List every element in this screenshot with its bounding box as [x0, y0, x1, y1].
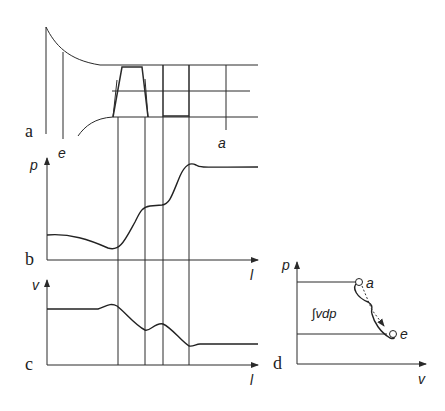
point-e-label: e [58, 145, 66, 161]
panel-b-pressure: p b l [25, 157, 258, 283]
velocity-curve [47, 304, 258, 346]
panel-b-label: b [25, 249, 34, 269]
point-a-label: a [218, 135, 226, 151]
panel-a-geometry: a e a [25, 27, 258, 161]
diagram-canvas: a e a p b l v c l a e ∫vdp [0, 0, 445, 411]
panel-c-label: c [25, 354, 33, 374]
trapezoid-obstacle [113, 67, 148, 117]
integral-label: ∫vdp [311, 306, 337, 321]
panel-d-label: d [273, 353, 282, 373]
point-e-marker [390, 331, 397, 338]
panel-a-label: a [25, 121, 33, 141]
projection-lines [118, 116, 189, 365]
d-v-axis-label: v [418, 371, 426, 387]
ideal-path-arrow [362, 286, 384, 326]
process-curve [355, 282, 395, 339]
l-axis-label: l [250, 267, 254, 283]
p-axis-label: p [29, 157, 38, 173]
panel-d-pv: a e ∫vdp p d v [273, 257, 426, 387]
upper-contour [46, 27, 258, 65]
d-p-axis-label: p [281, 257, 290, 273]
pressure-curve [47, 164, 258, 249]
panel-c-velocity: v c l [25, 277, 258, 388]
point-a-marker [356, 279, 363, 286]
d-point-e-label: e [400, 326, 408, 342]
d-point-a-label: a [366, 275, 374, 291]
l-axis-c-label: l [250, 372, 254, 388]
v-axis-label: v [32, 277, 40, 293]
lower-contour [78, 117, 258, 136]
